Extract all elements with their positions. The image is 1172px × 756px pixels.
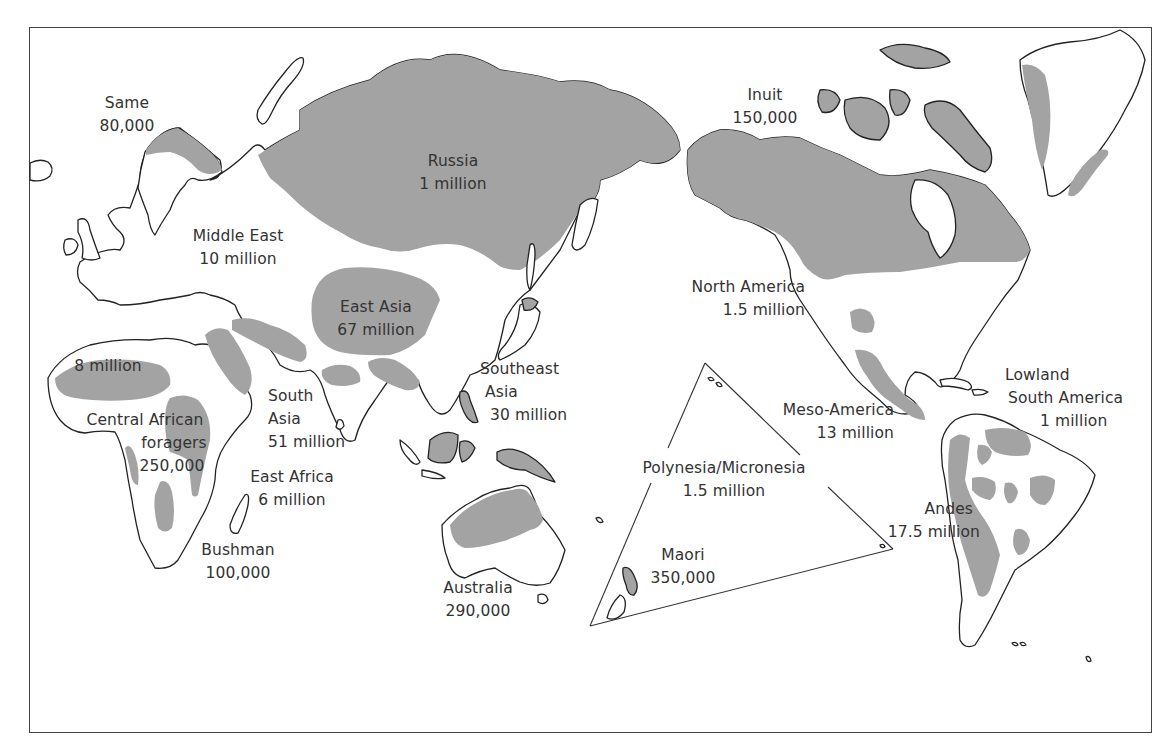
- arctic-island-3: [890, 90, 910, 116]
- label-southeast-asia: Southeast Asia 30 million: [480, 358, 567, 427]
- label-central-african-foragers: Central African foragers 250,000: [83, 409, 206, 478]
- label-caf-population: 250,000: [137, 455, 206, 478]
- label-east-africa-name: East Africa: [250, 466, 334, 489]
- label-caf-name-1: Central African: [83, 409, 206, 432]
- label-southeast-asia-name-1: Southeast: [480, 358, 567, 381]
- label-lowland-sa-name-1: Lowland: [1005, 364, 1123, 387]
- borneo-shaded: [428, 432, 458, 462]
- label-meso-america-name: Meso-America: [783, 399, 894, 422]
- label-russia-name: Russia: [419, 150, 486, 173]
- label-east-africa: East Africa 6 million: [250, 466, 334, 512]
- label-australia-population: 290,000: [443, 600, 512, 623]
- label-lowland-south-america: Lowland South America 1 million: [1005, 364, 1123, 433]
- label-polynesia-population: 1.5 million: [642, 480, 805, 503]
- arctic-island-4: [880, 44, 950, 68]
- label-south-asia-name-1: South: [268, 385, 345, 408]
- arctic-island-2: [844, 97, 889, 140]
- label-east-asia: East Asia 67 million: [337, 296, 414, 342]
- polynesia-triangle-right-lower: [828, 487, 893, 549]
- new-guinea-shaded: [497, 449, 555, 482]
- label-east-asia-name: East Asia: [337, 296, 414, 319]
- label-north-america: North America 1.5 million: [691, 276, 805, 322]
- new-zealand-north-island-shaded: [623, 567, 637, 595]
- label-same-population: 80,000: [100, 115, 155, 138]
- label-andes-population: 17.5 million: [888, 521, 980, 544]
- label-caf-name-2: foragers: [141, 432, 206, 455]
- label-southeast-asia-population: 30 million: [490, 404, 567, 427]
- south-georgia-island: [1086, 657, 1091, 662]
- cuba-landmass: [940, 378, 972, 390]
- novaya-zemlya-landmass: [257, 58, 303, 125]
- falkland-islands: [1012, 642, 1026, 645]
- label-sahel-population: 8 million: [74, 355, 141, 378]
- label-south-asia-name-2: Asia: [268, 408, 345, 431]
- britain-landmass: [78, 219, 100, 260]
- label-bushman: Bushman 100,000: [201, 539, 274, 585]
- baffin-island: [924, 101, 991, 172]
- label-middle-east: Middle East 10 million: [193, 225, 284, 271]
- label-meso-america: Meso-America 13 million: [783, 399, 894, 445]
- label-andes: Andes 17.5 million: [888, 498, 980, 544]
- java-landmass: [422, 470, 445, 479]
- label-russia-population: 1 million: [419, 173, 486, 196]
- hispaniola-landmass: [972, 389, 988, 395]
- tasmania-landmass: [538, 594, 548, 603]
- label-australia-name: Australia: [443, 577, 512, 600]
- arctic-island-1: [818, 90, 840, 113]
- easter-island: [880, 544, 885, 547]
- polynesia-triangle-left-upper: [668, 363, 705, 448]
- label-north-america-population: 1.5 million: [691, 299, 805, 322]
- label-maori: Maori 350,000: [651, 544, 716, 590]
- label-polynesia-name: Polynesia/Micronesia: [642, 457, 805, 480]
- label-maori-population: 350,000: [651, 567, 716, 590]
- label-inuit-name: Inuit: [733, 84, 798, 107]
- label-middle-east-name: Middle East: [193, 225, 284, 248]
- hawaii-islands: [708, 377, 722, 386]
- iceland-landmass: [30, 160, 52, 181]
- philippines-shaded: [460, 391, 479, 423]
- ireland-landmass: [64, 239, 78, 255]
- label-south-asia: South Asia 51 million: [268, 385, 345, 454]
- label-south-asia-population: 51 million: [268, 431, 345, 454]
- label-lowland-sa-population: 1 million: [1040, 410, 1123, 433]
- label-inuit-population: 150,000: [733, 107, 798, 130]
- label-australia: Australia 290,000: [443, 577, 512, 623]
- label-meso-america-population: 13 million: [783, 422, 894, 445]
- label-same: Same 80,000: [100, 92, 155, 138]
- label-southeast-asia-name-2: Asia: [485, 381, 567, 404]
- sumatra-landmass: [400, 440, 420, 464]
- label-russia: Russia 1 million: [419, 150, 486, 196]
- label-east-africa-population: 6 million: [250, 489, 334, 512]
- label-andes-name: Andes: [888, 498, 980, 521]
- label-bushman-name: Bushman: [201, 539, 274, 562]
- label-north-america-name: North America: [691, 276, 805, 299]
- fiji-island: [596, 518, 603, 523]
- label-same-name: Same: [100, 92, 155, 115]
- label-polynesia-micronesia: Polynesia/Micronesia 1.5 million: [642, 457, 805, 503]
- label-inuit: Inuit 150,000: [733, 84, 798, 130]
- greenland-west-shaded-region: [1022, 64, 1050, 170]
- madagascar-landmass: [230, 494, 249, 533]
- label-east-asia-population: 67 million: [337, 319, 414, 342]
- sulawesi-shaded: [459, 441, 475, 462]
- label-sahel: 8 million: [74, 355, 141, 378]
- new-zealand-south-island-landmass: [607, 595, 625, 619]
- label-maori-name: Maori: [651, 544, 716, 567]
- world-map: [0, 0, 1172, 756]
- label-lowland-sa-name-2: South America: [1008, 387, 1123, 410]
- label-bushman-population: 100,000: [201, 562, 274, 585]
- label-middle-east-population: 10 million: [193, 248, 284, 271]
